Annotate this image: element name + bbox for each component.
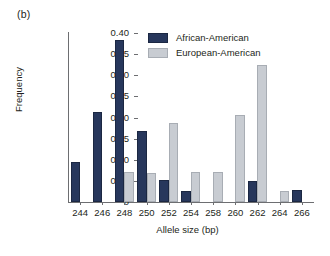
bar-chart-figure: (b) Frequency Allele size (bp) 00.050.10… — [0, 0, 330, 256]
bar-group — [91, 33, 113, 202]
x-axis-tick-mark — [280, 202, 281, 205]
bar-244-african-american — [71, 162, 81, 202]
x-axis-tick-mark — [258, 202, 259, 205]
bar-260-european-american — [235, 115, 245, 202]
x-axis-tick-label: 262 — [246, 207, 270, 218]
legend-label: African-American — [176, 32, 249, 43]
x-axis-tick-mark — [102, 202, 103, 205]
y-axis-title: Frequency — [13, 35, 24, 145]
bar-248-african-american — [115, 40, 125, 202]
x-axis-tick-label: 250 — [135, 207, 159, 218]
x-axis-tick-mark — [302, 202, 303, 205]
x-axis-tick-mark — [147, 202, 148, 205]
bar-246-african-american — [93, 112, 103, 202]
legend-swatch-icon — [148, 33, 168, 43]
x-axis-tick-label: 254 — [179, 207, 203, 218]
bar-264-european-american — [280, 191, 290, 202]
bar-252-african-american — [159, 180, 169, 202]
bar-group — [269, 33, 291, 202]
bar-254-african-american — [181, 191, 191, 202]
panel-label: (b) — [17, 8, 30, 20]
x-axis-tick-label: 258 — [201, 207, 225, 218]
x-axis-tick-mark — [169, 202, 170, 205]
chart-legend: African-AmericanEuropean-American — [148, 31, 261, 61]
legend-label: European-American — [176, 47, 261, 58]
x-axis-tick-label: 260 — [223, 207, 247, 218]
legend-swatch-icon — [148, 48, 168, 58]
x-axis-tick-label: 246 — [90, 207, 114, 218]
bar-254-european-american — [191, 172, 201, 202]
bar-248-european-american — [124, 172, 134, 202]
legend-item: African-American — [148, 31, 261, 44]
bar-258-european-american — [213, 172, 223, 202]
bar-266-african-american — [292, 190, 302, 202]
bar-250-european-american — [147, 173, 157, 202]
x-axis-tick-mark — [213, 202, 214, 205]
x-axis-tick-label: 252 — [157, 207, 181, 218]
x-axis-title: Allele size (bp) — [60, 224, 315, 235]
x-axis-tick-label: 244 — [68, 207, 92, 218]
x-axis-tick-mark — [191, 202, 192, 205]
bar-group — [69, 33, 91, 202]
x-axis-tick-mark — [235, 202, 236, 205]
bar-252-european-american — [169, 123, 179, 202]
x-axis-tick-label: 248 — [112, 207, 136, 218]
x-axis-tick-mark — [124, 202, 125, 205]
bar-group — [291, 33, 313, 202]
x-axis-tick-label: 266 — [290, 207, 314, 218]
bar-250-african-american — [137, 131, 147, 202]
x-axis-tick-mark — [80, 202, 81, 205]
bar-262-african-american — [248, 181, 258, 202]
bar-262-european-american — [257, 65, 267, 202]
x-axis-tick-label: 264 — [268, 207, 292, 218]
bar-group — [113, 33, 135, 202]
legend-item: European-American — [148, 46, 261, 59]
y-axis-tick-mark — [134, 202, 138, 203]
